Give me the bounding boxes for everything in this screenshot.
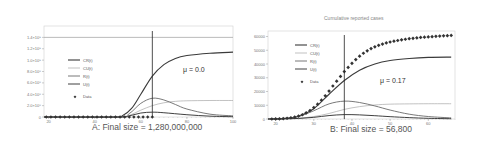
y-tick-label: 40000 — [254, 62, 266, 67]
mu-annotation: μ = 0.0 — [183, 66, 205, 74]
plot-frame — [268, 31, 455, 119]
legend-item-label: Data — [83, 94, 92, 99]
chart-panel-b: Cumulative reported cases 01000020000300… — [240, 0, 480, 144]
y-tick-label: 50000 — [254, 48, 266, 53]
y-tick-label: 1.4×10⁹ — [27, 35, 41, 40]
x-tick-label: 30 — [312, 121, 317, 126]
series-line-cut — [44, 100, 233, 117]
series-line-rt — [44, 98, 233, 117]
legend-item-label: R(t) — [83, 74, 90, 79]
legend-item-label: CU(t) — [83, 66, 93, 71]
y-tick-label: 60000 — [254, 34, 266, 39]
y-tick-label: 1.2×10⁹ — [27, 46, 41, 51]
legend: CR(t)CU(t)R(t)U(t)Data — [68, 58, 93, 100]
legend: CR(t)CU(t)R(t)U(t)Data — [295, 43, 320, 85]
chart-b-caption: B: Final size = 56,800 — [330, 124, 412, 134]
data-points — [270, 34, 453, 121]
legend-item-label: R(t) — [310, 59, 317, 64]
x-tick-label: 20 — [273, 121, 278, 126]
legend-item-label: CR(t) — [83, 58, 93, 63]
y-tick-label: 0 — [39, 115, 42, 120]
chart-panel-a: 02.0×10⁸4.0×10⁸6.0×10⁸8.0×10⁸1.0×10⁹1.2×… — [0, 0, 240, 144]
legend-item-label: U(t) — [83, 82, 90, 87]
mu-annotation: μ = 0.17 — [380, 77, 406, 85]
chart-b-title: Cumulative reported cases — [324, 15, 383, 21]
chart-a-caption: A: Final size = 1,280,000,000 — [92, 122, 202, 132]
y-tick-label: 30000 — [254, 75, 266, 80]
y-tick-label: 4.0×10⁸ — [27, 92, 41, 97]
y-tick-label: 20000 — [254, 89, 266, 94]
legend-item-label: CR(t) — [310, 43, 320, 48]
y-tick-label: 2.0×10⁸ — [27, 103, 41, 108]
legend-item-label: U(t) — [310, 67, 317, 72]
x-tick-label: 20 — [46, 119, 51, 124]
chart-b-plot: 0100002000030000400005000060000203040506… — [240, 0, 480, 144]
y-tick-label: 0 — [263, 117, 266, 122]
y-tick-label: 8.0×10⁸ — [27, 69, 41, 74]
legend-item-label: Data — [310, 79, 319, 84]
x-tick-label: 100 — [230, 119, 237, 124]
y-tick-label: 1.0×10⁹ — [27, 58, 41, 63]
series-line-crt — [44, 52, 233, 117]
series-line-crt — [268, 57, 451, 119]
legend-item-label: CU(t) — [310, 51, 320, 56]
y-tick-label: 10000 — [254, 103, 266, 108]
x-tick-label: 60 — [426, 121, 431, 126]
y-tick-label: 6.0×10⁸ — [27, 80, 41, 85]
